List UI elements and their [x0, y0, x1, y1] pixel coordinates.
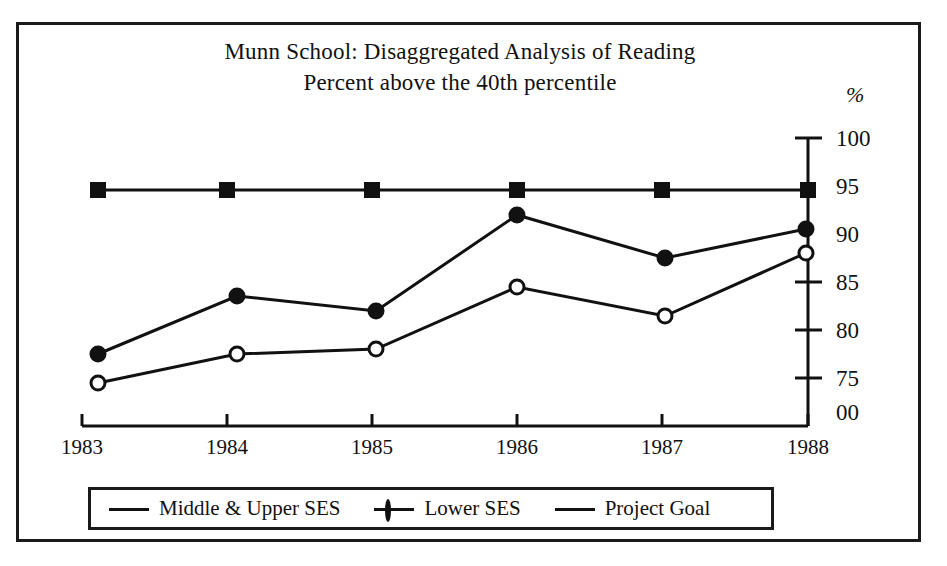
plot-vectors [0, 0, 947, 566]
y-tick-label-85: 85 [836, 270, 896, 296]
data-point-project-goal-1984 [219, 182, 235, 198]
legend-label-project-goal: Project Goal [605, 496, 711, 521]
open-circle-marker-icon [368, 341, 385, 358]
filled-square-marker-icon [654, 182, 670, 198]
data-point-middle-upper-ses-1987 [657, 250, 674, 267]
legend-items: Middle & Upper SES Lower SES Project Goa… [91, 490, 771, 527]
legend-marker-project-goal [555, 500, 595, 518]
data-point-project-goal-1986 [509, 182, 525, 198]
legend-label-middle-upper-ses: Middle & Upper SES [159, 496, 340, 521]
filled-circle-marker-icon [657, 250, 674, 267]
filled-circle-marker-icon [798, 221, 815, 238]
y-tick-label-90: 90 [836, 222, 896, 248]
data-point-middle-upper-ses-1985 [368, 303, 385, 320]
legend: Middle & Upper SES Lower SES Project Goa… [88, 487, 774, 530]
y-tick-label-95: 95 [836, 174, 896, 200]
filled-square-marker-icon [90, 182, 106, 198]
x-axis [82, 414, 808, 426]
filled-circle-marker-icon [368, 303, 385, 320]
filled-square-marker-icon [219, 182, 235, 198]
y-tick-label-100: 100 [836, 126, 896, 152]
x-tick-label-1986: 1986 [472, 435, 562, 460]
x-tick-label-1984: 1984 [182, 435, 272, 460]
open-circle-marker-icon [798, 245, 815, 262]
open-circle-marker-icon [229, 346, 246, 363]
legend-item-project-goal: Project Goal [555, 496, 711, 521]
x-tick-label-1988: 1988 [763, 435, 853, 460]
x-tick-label-1985: 1985 [327, 435, 417, 460]
filled-square-marker-icon [509, 182, 525, 198]
series-line-middle-upper-ses [98, 215, 806, 354]
data-point-lower-ses-1984 [229, 346, 246, 363]
legend-line-segment [555, 508, 595, 511]
y-tick-label-75: 75 [836, 366, 896, 392]
legend-marker-middle-upper-ses [109, 500, 149, 518]
data-point-project-goal-1987 [654, 182, 670, 198]
data-point-project-goal-1988 [800, 182, 816, 198]
data-point-project-goal-1983 [90, 182, 106, 198]
legend-marker-lower-ses [374, 500, 414, 518]
data-point-lower-ses-1983 [90, 375, 107, 392]
open-circle-marker-icon [657, 308, 674, 325]
legend-label-lower-ses: Lower SES [424, 496, 520, 521]
legend-item-lower-ses: Lower SES [374, 496, 520, 521]
plot-area: 100 95 90 85 80 75 00 1983 1984 1985 198… [0, 0, 947, 566]
open-circle-marker-icon [90, 375, 107, 392]
filled-circle-marker-icon [509, 207, 526, 224]
data-point-lower-ses-1988 [798, 245, 815, 262]
figure-canvas: Munn School: Disaggregated Analysis of R… [0, 0, 947, 566]
filled-square-marker-icon [364, 182, 380, 198]
filled-circle-marker-icon [90, 346, 107, 363]
data-point-middle-upper-ses-1984 [229, 288, 246, 305]
open-circle-marker-icon [385, 502, 391, 520]
data-point-project-goal-1985 [364, 182, 380, 198]
filled-square-marker-icon [800, 182, 816, 198]
series-line-lower-ses [98, 253, 806, 383]
open-circle-marker-icon [509, 279, 526, 296]
data-point-lower-ses-1985 [368, 341, 385, 358]
y-tick-label-70: 00 [836, 400, 896, 426]
x-tick-label-1983: 1983 [37, 435, 127, 460]
y-tick-label-80: 80 [836, 318, 896, 344]
x-tick-label-1987: 1987 [617, 435, 707, 460]
data-point-middle-upper-ses-1986 [509, 207, 526, 224]
data-point-middle-upper-ses-1983 [90, 346, 107, 363]
data-point-lower-ses-1987 [657, 308, 674, 325]
legend-item-middle-upper-ses: Middle & Upper SES [109, 496, 340, 521]
legend-line-segment [109, 508, 149, 511]
legend-line-segment [374, 508, 414, 511]
data-point-middle-upper-ses-1988 [798, 221, 815, 238]
filled-circle-marker-icon [229, 288, 246, 305]
data-point-lower-ses-1986 [509, 279, 526, 296]
